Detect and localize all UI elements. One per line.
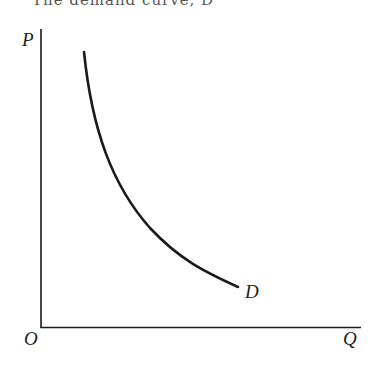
y-axis-label: P	[21, 29, 34, 50]
x-axis-label: Q	[343, 328, 357, 349]
curve-label: D	[244, 281, 259, 302]
demand-curve	[84, 52, 238, 287]
axes	[41, 29, 362, 328]
demand-diagram: P O Q D	[0, 0, 381, 368]
origin-label: O	[24, 328, 38, 349]
